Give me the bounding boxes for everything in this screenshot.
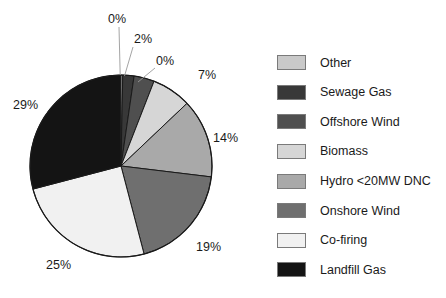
legend-item-landfill-gas[interactable]: Landfill Gas xyxy=(277,255,445,285)
legend-item-hydro-20mw-dnc[interactable]: Hydro <20MW DNC xyxy=(277,166,445,196)
legend-swatch-icon xyxy=(277,174,306,189)
legend-item-label: Onshore Wind xyxy=(320,205,400,218)
legend-item-label: Hydro <20MW DNC xyxy=(320,175,431,188)
pie-percentage-label-sewage-gas: 2% xyxy=(134,32,152,46)
legend-swatch-icon xyxy=(277,203,306,218)
chart-legend: OtherSewage GasOffshore WindBiomassHydro… xyxy=(277,48,445,285)
legend-swatch-icon xyxy=(277,233,306,248)
pie-percentage-label-landfill-gas: 29% xyxy=(13,98,38,112)
pie-slices-group xyxy=(30,75,212,257)
legend-item-biomass[interactable]: Biomass xyxy=(277,137,445,167)
leader-line-1 xyxy=(125,47,134,76)
pie-percentage-label-offshore-wind: 0% xyxy=(156,54,174,68)
legend-item-sewage-gas[interactable]: Sewage Gas xyxy=(277,78,445,108)
legend-item-other[interactable]: Other xyxy=(277,48,445,78)
leader-line-0 xyxy=(119,27,120,75)
pie-percentage-label-onshore-wind: 19% xyxy=(196,240,221,254)
pie-percentage-label-biomass: 7% xyxy=(198,68,216,82)
legend-item-label: Biomass xyxy=(320,145,368,158)
legend-item-label: Other xyxy=(320,57,351,70)
legend-item-onshore-wind[interactable]: Onshore Wind xyxy=(277,196,445,226)
legend-item-label: Landfill Gas xyxy=(320,264,386,277)
legend-item-label: Sewage Gas xyxy=(320,86,392,99)
legend-item-label: Offshore Wind xyxy=(320,116,400,129)
pie-percentage-label-co-firing: 25% xyxy=(46,258,71,272)
legend-swatch-icon xyxy=(277,85,306,100)
legend-item-co-firing[interactable]: Co-firing xyxy=(277,226,445,256)
legend-swatch-icon xyxy=(277,114,306,129)
legend-swatch-icon xyxy=(277,55,306,70)
legend-item-offshore-wind[interactable]: Offshore Wind xyxy=(277,107,445,137)
legend-swatch-icon xyxy=(277,262,306,277)
legend-swatch-icon xyxy=(277,144,306,159)
pie-chart-figure: 0%2%0%7%14%19%25%29% OtherSewage GasOffs… xyxy=(0,0,446,298)
pie-percentage-label-hydro-20mw-dnc: 14% xyxy=(213,131,238,145)
pie-percentage-label-other: 0% xyxy=(108,12,126,26)
legend-item-label: Co-firing xyxy=(320,234,367,247)
